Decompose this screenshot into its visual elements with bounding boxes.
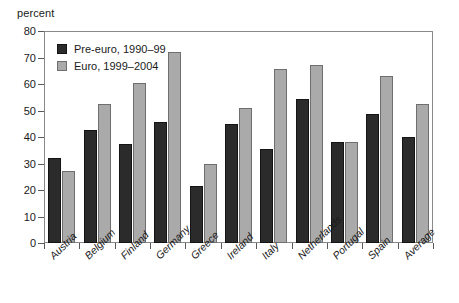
x-tick-mark bbox=[433, 243, 434, 249]
y-tick-label: 60 bbox=[6, 78, 36, 90]
y-tick-label: 70 bbox=[6, 52, 36, 64]
bar-pre-euro bbox=[48, 158, 61, 243]
legend-label-euro: Euro, 1999–2004 bbox=[74, 60, 158, 72]
x-tick-mark bbox=[185, 243, 186, 249]
bar-group bbox=[256, 31, 291, 243]
bar-euro bbox=[380, 76, 393, 243]
bar-pre-euro bbox=[366, 114, 379, 243]
bar-pre-euro bbox=[154, 122, 167, 243]
y-axis-title: percent bbox=[17, 7, 54, 19]
y-tick-label: 20 bbox=[6, 184, 36, 196]
bar-euro bbox=[133, 83, 146, 243]
bar-group bbox=[362, 31, 397, 243]
legend-swatch-icon-pre-euro bbox=[57, 44, 67, 54]
bar-euro bbox=[416, 104, 429, 243]
bar-pre-euro bbox=[296, 99, 309, 243]
x-tick-mark bbox=[398, 243, 399, 249]
bar-group bbox=[327, 31, 362, 243]
legend-swatch-icon-euro bbox=[57, 61, 67, 71]
y-tick-label: 10 bbox=[6, 211, 36, 223]
x-tick-mark bbox=[292, 243, 293, 249]
x-tick-mark bbox=[150, 243, 151, 249]
y-tick-label: 80 bbox=[6, 25, 36, 37]
bar-pre-euro bbox=[225, 124, 238, 243]
bar-pre-euro bbox=[190, 186, 203, 243]
legend-item-pre-euro: Pre-euro, 1990–99 bbox=[57, 41, 166, 56]
bar-pre-euro bbox=[402, 137, 415, 243]
bar-group bbox=[398, 31, 433, 243]
x-tick-mark bbox=[79, 243, 80, 249]
bar-euro bbox=[98, 104, 111, 243]
bar-pre-euro bbox=[260, 149, 273, 243]
x-tick-mark bbox=[221, 243, 222, 249]
legend-label-pre-euro: Pre-euro, 1990–99 bbox=[74, 43, 166, 55]
bar-group bbox=[292, 31, 327, 243]
x-tick-mark bbox=[327, 243, 328, 249]
bar-euro bbox=[274, 69, 287, 243]
y-tick-label: 40 bbox=[6, 131, 36, 143]
x-tick-mark bbox=[362, 243, 363, 249]
legend-item-euro: Euro, 1999–2004 bbox=[57, 58, 166, 73]
bar-euro bbox=[310, 65, 323, 243]
bar-pre-euro bbox=[84, 130, 97, 243]
chart-legend: Pre-euro, 1990–99 Euro, 1999–2004 bbox=[57, 41, 166, 75]
bar-pre-euro bbox=[119, 144, 132, 243]
x-tick-mark bbox=[256, 243, 257, 249]
x-tick-mark bbox=[44, 243, 45, 249]
bar-group bbox=[221, 31, 256, 243]
y-tick-label: 0 bbox=[6, 237, 36, 249]
bar-euro bbox=[239, 108, 252, 243]
y-tick-label: 50 bbox=[6, 105, 36, 117]
x-tick-mark bbox=[115, 243, 116, 249]
bar-euro bbox=[168, 52, 181, 243]
y-tick-label: 30 bbox=[6, 158, 36, 170]
bar-group bbox=[185, 31, 220, 243]
bar-chart: percent 01020304050607080 AustriaBelgium… bbox=[0, 0, 459, 303]
